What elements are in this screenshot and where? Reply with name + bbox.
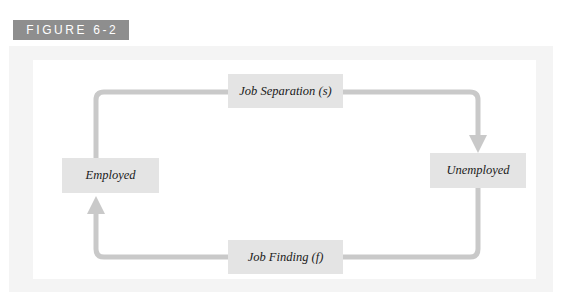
node-job-finding-label: Job Finding (f)	[248, 251, 324, 264]
node-job-finding: Job Finding (f)	[228, 240, 343, 274]
node-job-separation: Job Separation (s)	[228, 74, 343, 108]
connector-employed-to-separation	[96, 92, 228, 160]
connector-finding-to-employed	[96, 212, 228, 257]
node-employed-label: Employed	[86, 169, 136, 182]
connector-unemployed-to-finding	[343, 188, 478, 257]
arrowhead-into-employed	[87, 196, 105, 214]
node-unemployed: Unemployed	[430, 153, 526, 188]
node-employed: Employed	[62, 158, 159, 193]
arrowhead-into-unemployed	[469, 135, 487, 153]
node-job-separation-label: Job Separation (s)	[239, 85, 331, 98]
figure-container: FIGURE 6-2 Job Separation (s) Employed U…	[0, 0, 562, 300]
connector-separation-to-unemployed	[343, 92, 478, 138]
node-unemployed-label: Unemployed	[446, 164, 509, 177]
